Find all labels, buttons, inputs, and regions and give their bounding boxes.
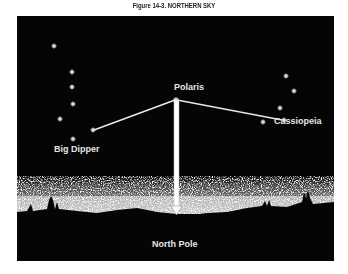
polaris-label: Polaris [174,82,204,92]
polaris-star [173,97,180,104]
night-sky-diagram: Polaris Big Dipper Cassiopeia North Pole [17,16,334,261]
cassiopeia-label: Cassiopeia [274,116,322,126]
big-dipper-stars [51,43,96,142]
constellation-lines [94,100,282,130]
figure-title: Figure 14-3. NORTHERN SKY [26,2,322,9]
north-pole-label: North Pole [152,239,198,249]
big-dipper-label: Big Dipper [54,144,100,154]
sky-illustration [17,16,334,261]
